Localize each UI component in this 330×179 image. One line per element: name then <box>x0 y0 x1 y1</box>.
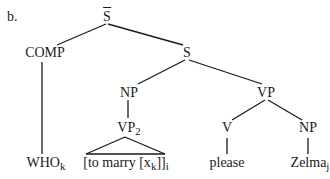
branch-vp-np <box>268 100 302 120</box>
leaf-infinitive: [to marry [xk]]i <box>83 156 169 170</box>
vp2-subscript: 2 <box>135 125 141 137</box>
branch-vp-v <box>232 100 265 120</box>
leaf-who: WHOk <box>27 156 66 170</box>
branch-sbar-comp <box>57 24 106 45</box>
infinitive-outer-subscript: i <box>166 160 169 172</box>
node-np-object: NP <box>299 121 317 135</box>
node-vp2: VP2 <box>117 121 140 135</box>
leaf-zelma: Zelmaj <box>291 156 330 170</box>
node-s: S <box>183 46 191 60</box>
tree-branches <box>0 0 330 179</box>
who-subscript: k <box>60 160 66 172</box>
infinitive-text: [to marry [x <box>83 155 151 170</box>
vp2-label: VP <box>117 120 135 135</box>
branch-sbar-s <box>108 24 183 45</box>
node-v: V <box>222 121 232 135</box>
node-vp: VP <box>257 86 275 100</box>
zelma-text: Zelma <box>291 155 327 170</box>
example-label: b. <box>7 10 18 24</box>
node-comp: COMP <box>25 46 65 60</box>
zelma-subscript: j <box>326 160 329 172</box>
triangle-right <box>125 137 165 154</box>
node-s-bar: S <box>103 10 111 24</box>
leaf-please: please <box>210 156 245 170</box>
who-text: WHO <box>27 155 60 170</box>
branch-s-vp <box>189 60 262 84</box>
branch-s-np <box>138 60 185 84</box>
triangle-left <box>86 137 125 154</box>
node-np-subject: NP <box>120 86 138 100</box>
s-bar-symbol: S <box>103 10 111 24</box>
